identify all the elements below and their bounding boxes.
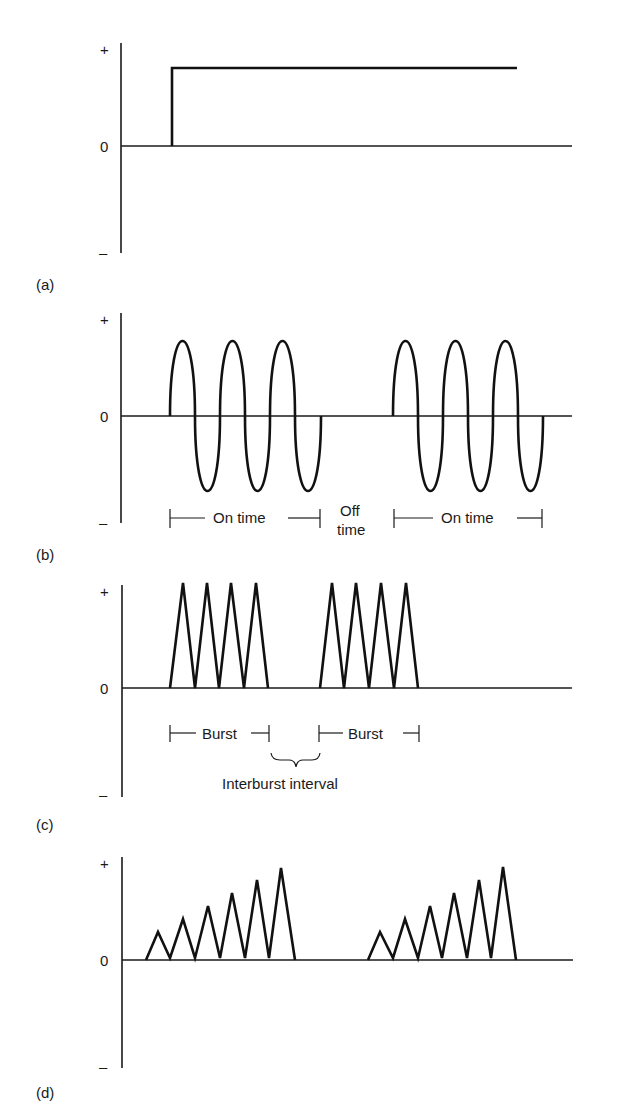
axis-plus-label: + <box>100 855 109 872</box>
axis-plus-label: + <box>100 583 109 600</box>
panel-b: + 0 – On time Off time On time (b) <box>36 311 572 563</box>
axis-zero-label: 0 <box>100 952 108 969</box>
on-time-label-2: On time <box>441 509 494 526</box>
panel-label-a: (a) <box>36 276 54 293</box>
axis-minus-label: – <box>99 786 108 803</box>
axis-plus-label: + <box>100 311 109 328</box>
axis-plus-label: + <box>100 41 109 58</box>
dc-step-signal <box>172 68 517 146</box>
axis-zero-label: 0 <box>100 408 108 425</box>
axis-minus-label: – <box>99 1058 108 1075</box>
ramped-burst-1 <box>146 868 295 960</box>
panel-a: + 0 – (a) <box>36 41 572 293</box>
panel-label-b: (b) <box>36 546 54 563</box>
triangle-burst-2 <box>320 583 418 688</box>
interburst-brace <box>271 753 320 767</box>
on-time-label-1: On time <box>213 509 266 526</box>
waveform-figure: + 0 – (a) + 0 – On time Off time <box>0 0 620 1107</box>
off-time-label-line1: Off <box>340 502 361 519</box>
panel-c: + 0 – Burst Burst Interburst interval (c… <box>36 583 572 833</box>
panel-label-c: (c) <box>36 816 54 833</box>
panel-d: + 0 – (d) <box>36 855 573 1101</box>
burst-bracket-1: Burst <box>170 725 269 742</box>
interburst-label: Interburst interval <box>222 775 338 792</box>
axis-minus-label: – <box>99 514 108 531</box>
triangle-burst-1 <box>170 583 268 688</box>
on-time-bracket-2: On time <box>394 509 542 528</box>
burst-label-1: Burst <box>202 725 238 742</box>
burst-bracket-2: Burst <box>319 725 419 742</box>
burst-label-2: Burst <box>348 725 384 742</box>
axis-zero-label: 0 <box>100 680 108 697</box>
on-time-bracket-1: On time <box>170 509 320 528</box>
panel-label-d: (d) <box>36 1084 54 1101</box>
axis-zero-label: 0 <box>100 138 108 155</box>
off-time-label-line2: time <box>337 521 365 538</box>
axis-minus-label: – <box>99 244 108 261</box>
ramped-burst-2 <box>368 867 516 960</box>
